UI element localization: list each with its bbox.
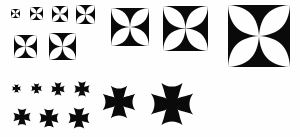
maltese-square-8 (163, 6, 208, 51)
maltese-square-1 (11, 9, 20, 18)
maltese-square-2 (30, 7, 43, 20)
maltese-square-9 (228, 5, 290, 67)
maltese-square-4 (76, 5, 95, 24)
maltese-square-3 (52, 6, 68, 22)
cross-pattee-2 (31, 83, 42, 94)
maltese-square-7 (111, 8, 149, 46)
cross-pattee-4 (74, 81, 90, 97)
cross-pattee-6 (39, 108, 59, 128)
cross-pattee-3 (51, 82, 65, 96)
cross-pattee-7 (68, 107, 90, 129)
cross-pattee-9 (150, 82, 194, 126)
maltese-square-6 (49, 33, 76, 60)
cross-pattee-8 (102, 85, 136, 119)
cross-pattee-5 (13, 108, 31, 126)
maltese-square-5 (14, 35, 37, 58)
cross-pattee-1 (12, 84, 21, 93)
specimen-sheet (0, 0, 300, 137)
